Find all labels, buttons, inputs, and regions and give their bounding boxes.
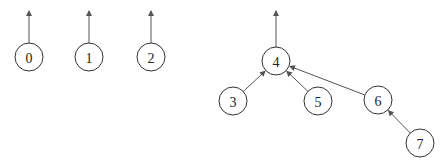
edge-5-to-4 [287, 71, 308, 91]
node-label: 0 [26, 51, 33, 66]
edge-7-to-6 [388, 111, 410, 133]
nodes-layer: 01234567 [15, 43, 434, 157]
node-label: 3 [230, 95, 237, 110]
node-7: 7 [406, 129, 434, 157]
node-label: 5 [315, 95, 322, 110]
node-label: 6 [375, 94, 382, 109]
node-1: 1 [75, 43, 103, 71]
node-5: 5 [304, 87, 332, 115]
node-label: 1 [86, 51, 93, 66]
root-arrows-layer [29, 11, 276, 47]
node-3: 3 [219, 87, 247, 115]
node-4: 4 [262, 47, 290, 75]
node-6: 6 [364, 86, 392, 114]
node-2: 2 [137, 43, 165, 71]
edge-3-to-4 [243, 71, 265, 91]
node-label: 7 [417, 137, 424, 152]
node-0: 0 [15, 43, 43, 71]
node-label: 2 [148, 51, 155, 66]
node-label: 4 [273, 55, 280, 70]
forest-diagram: 01234567 [0, 0, 447, 163]
diagram-canvas: 01234567 [0, 0, 447, 163]
